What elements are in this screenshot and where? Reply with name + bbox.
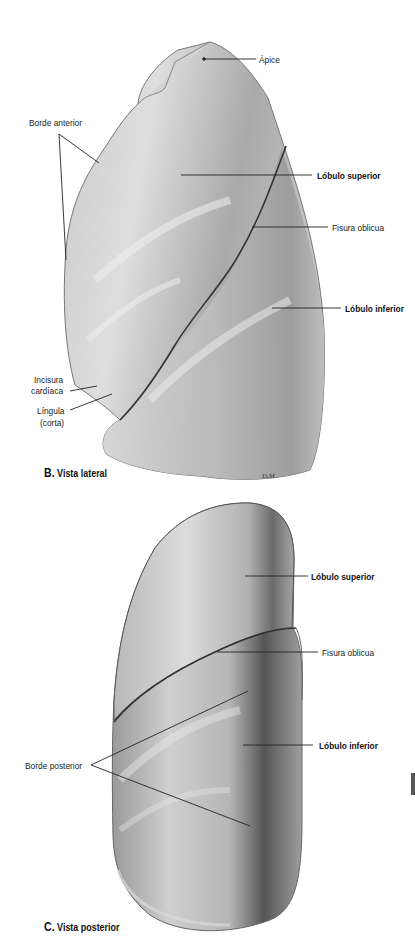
label-oblique-fissure-lateral: Fisura oblicua	[332, 222, 384, 233]
label-lower-lobe-posterior: Lóbulo inferior	[319, 740, 378, 751]
label-cardiac-notch-line1: Incisura	[34, 374, 63, 385]
label-cardiac-notch-line2: cardíaca	[31, 385, 63, 396]
label-upper-lobe-posterior: Lóbulo superior	[311, 571, 375, 582]
label-posterior-border: Borde posterior	[25, 760, 82, 771]
caption-posterior-view: C. Vista posterior	[44, 920, 119, 934]
label-lower-lobe-lateral: Lóbulo inferior	[345, 303, 404, 314]
label-lingula-line1: Língula	[37, 405, 64, 416]
label-anterior-border: Borde anterior	[29, 117, 82, 128]
caption-text-b: Vista lateral	[57, 467, 107, 479]
label-lingula-line2: (corta)	[40, 417, 64, 428]
page-edge-marker	[411, 773, 415, 795]
posterior-lung-drawing	[112, 503, 302, 931]
label-apex: Ápice	[259, 54, 280, 65]
caption-lateral-view: B. Vista lateral	[44, 466, 107, 480]
lateral-lung-drawing: D.M.	[64, 42, 324, 480]
caption-letter-b: B.	[44, 466, 55, 480]
caption-text-c: Vista posterior	[57, 921, 119, 933]
caption-letter-c: C.	[44, 920, 55, 934]
label-upper-lobe-lateral: Lóbulo superior	[317, 170, 381, 181]
artist-signature: D.M.	[261, 472, 277, 480]
label-oblique-fissure-posterior: Fisura oblicua	[322, 647, 374, 658]
